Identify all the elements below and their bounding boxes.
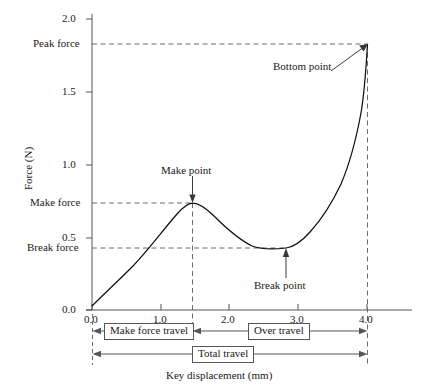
force-displacement-chart: 2.0 1.5 1.0 0.5 0.0 0.0 1.0 2.0 3.0 4.0 … xyxy=(0,0,429,391)
y-tick-label-1-5: 1.5 xyxy=(62,86,76,97)
total-travel-right-arrowhead xyxy=(359,351,368,357)
over-travel-right-arrowhead xyxy=(359,328,368,334)
force-curve xyxy=(92,44,368,306)
y-tick-label-2-0: 2.0 xyxy=(62,13,76,24)
x-tick-label-0-0: 0.0 xyxy=(84,314,98,325)
break-force-label: Break force xyxy=(27,242,79,253)
y-tick-label-0-0: 0.0 xyxy=(62,304,76,315)
make-force-travel-label: Make force travel xyxy=(104,323,194,340)
total-travel-left-arrowhead xyxy=(93,351,102,357)
break-point-label: Break point xyxy=(254,280,306,291)
bottom-point-label: Bottom point xyxy=(273,61,331,72)
over-travel-label: Over travel xyxy=(248,323,310,340)
make-point-arrowhead xyxy=(189,195,195,204)
make-point-label: Make point xyxy=(161,165,211,176)
y-tick-label-1-0: 1.0 xyxy=(62,159,76,170)
make-force-travel-left-arrowhead xyxy=(93,328,102,334)
total-travel-label: Total travel xyxy=(192,346,254,363)
break-point-arrowhead xyxy=(283,248,289,257)
x-tick-label-2-0: 2.0 xyxy=(221,314,235,325)
make-force-label: Make force xyxy=(30,197,80,208)
peak-force-label: Peak force xyxy=(33,38,80,49)
x-tick-label-4-0: 4.0 xyxy=(359,314,373,325)
y-axis-title: Force (N) xyxy=(22,147,34,190)
x-axis-title: Key displacement (mm) xyxy=(166,370,272,381)
bottom-point-leader xyxy=(331,48,363,71)
